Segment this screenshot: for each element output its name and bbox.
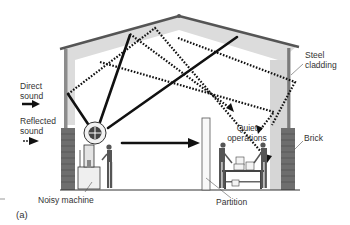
legend-reflected-arrow bbox=[23, 137, 39, 145]
panel-label: (a) bbox=[16, 210, 28, 220]
legend-direct-label: Direct sound bbox=[20, 82, 43, 101]
direct-arrowhead bbox=[188, 138, 200, 148]
legend-direct-line2: sound bbox=[20, 92, 43, 102]
steel-cladding-label: Steel cladding bbox=[305, 51, 337, 70]
left-wall bbox=[64, 49, 68, 129]
workbench bbox=[222, 157, 264, 189]
legend-direct-arrow bbox=[22, 100, 40, 108]
noisy-machine bbox=[78, 122, 106, 189]
legend-reflected-line2: sound bbox=[20, 127, 56, 137]
noisy-machine-label: Noisy machine bbox=[38, 196, 94, 206]
partition bbox=[202, 118, 210, 190]
left-brick-pillar bbox=[61, 128, 75, 190]
right-brick-pillar bbox=[281, 128, 295, 190]
legend-reflected-label: Reflected sound bbox=[20, 117, 56, 136]
steel-cladding-line2: cladding bbox=[305, 61, 337, 71]
brick-label: Brick bbox=[304, 134, 323, 144]
machine-operator bbox=[102, 144, 112, 188]
quiet-line2: operations bbox=[222, 134, 272, 144]
quiet-operations-label: Quiet operations bbox=[222, 124, 272, 143]
partition-label: Partition bbox=[216, 198, 247, 208]
building-diagram bbox=[0, 0, 350, 225]
